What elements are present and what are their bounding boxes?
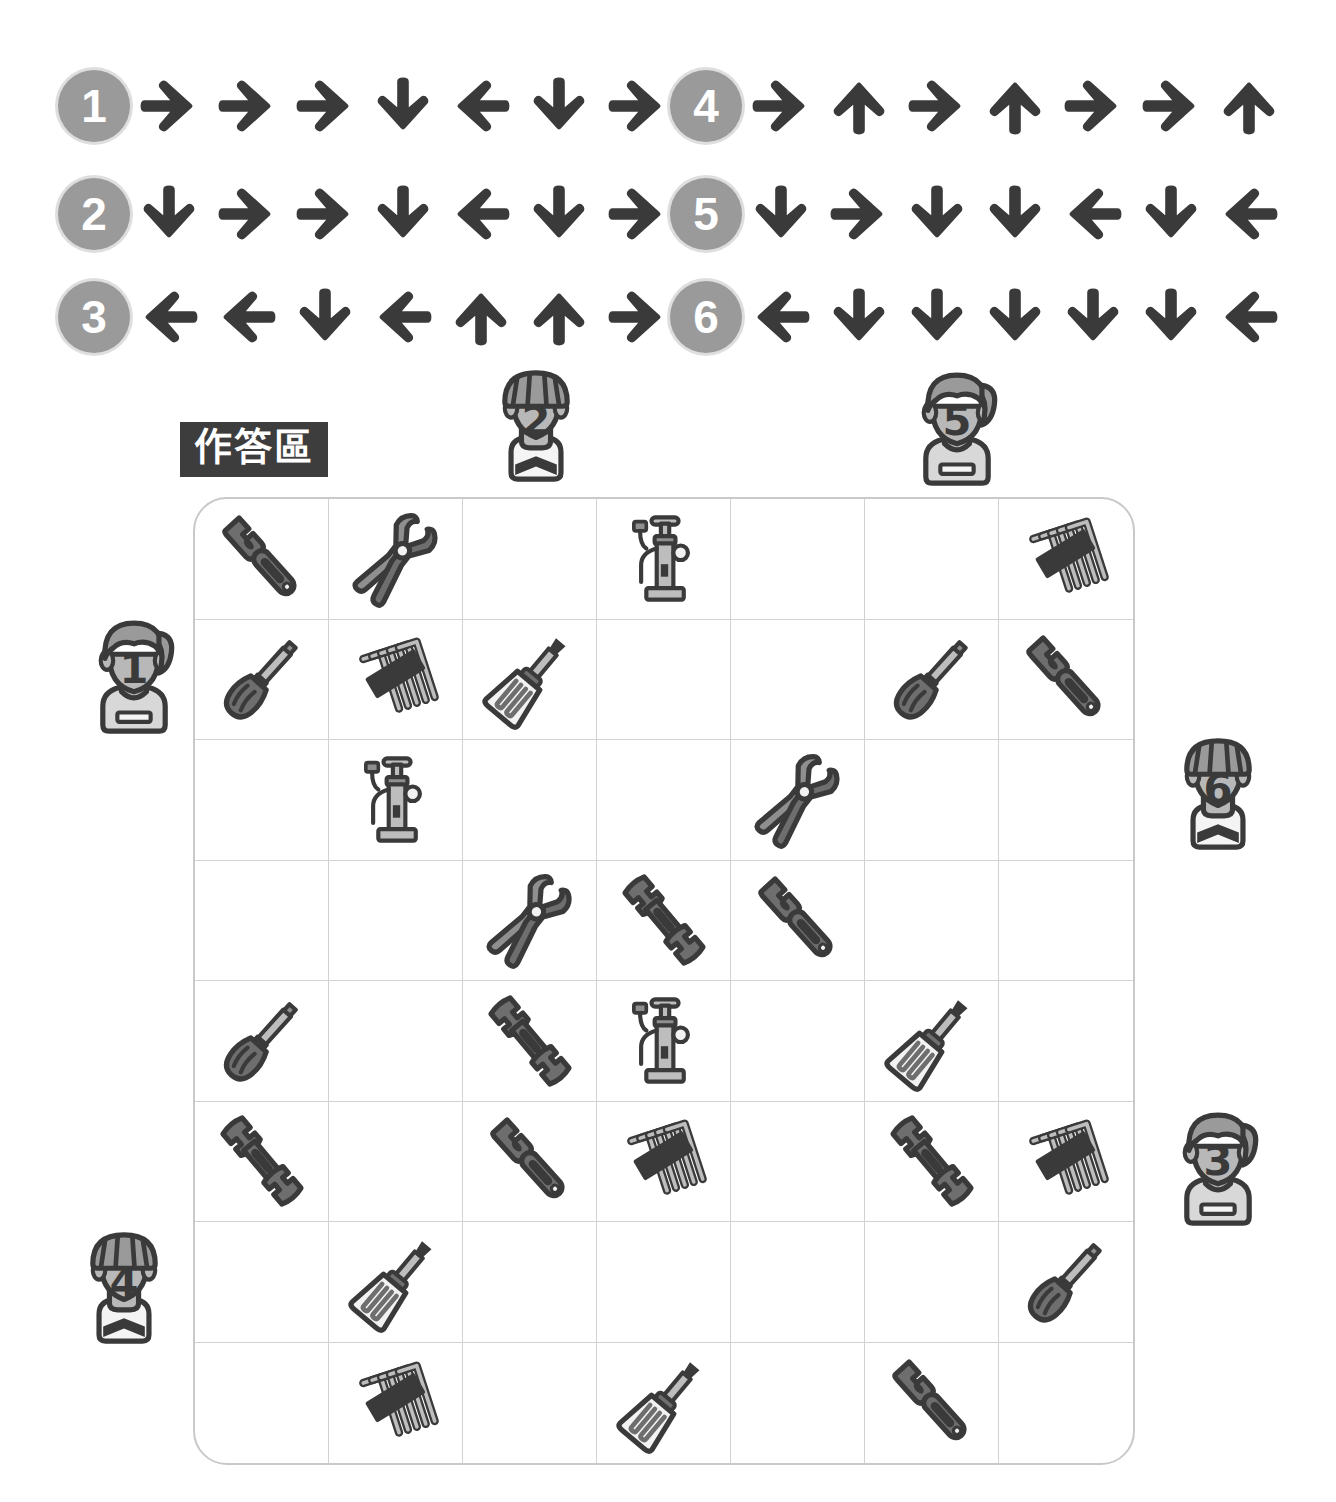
arrow-down-icon: [976, 281, 1054, 353]
grid-cell-empty[interactable]: [865, 1222, 999, 1343]
grid-cell-tool[interactable]: [597, 861, 731, 982]
grid-cell-empty[interactable]: [329, 981, 463, 1102]
adjustable-wrench-icon: [478, 1109, 582, 1213]
avatar-5: 5: [905, 360, 1009, 492]
grid-cell-tool[interactable]: [999, 1102, 1133, 1223]
grid-cell-tool[interactable]: [195, 1102, 329, 1223]
adjustable-wrench-icon: [880, 1351, 984, 1455]
grid-cell-tool[interactable]: [329, 620, 463, 741]
grid-cell-empty[interactable]: [329, 861, 463, 982]
grid-cell-tool[interactable]: [463, 620, 597, 741]
grid-cell-empty[interactable]: [731, 1222, 865, 1343]
arrow-down-icon: [364, 70, 442, 142]
arrow-right-icon: [1054, 70, 1132, 142]
grid-cell-empty[interactable]: [195, 861, 329, 982]
grid-cell-empty[interactable]: [463, 1222, 597, 1343]
hex-key-set-icon: [344, 1351, 448, 1455]
arrow-down-icon: [1132, 178, 1210, 250]
adjustable-wrench-icon: [210, 507, 314, 611]
grid-cell-tool[interactable]: [195, 499, 329, 620]
grid-cell-tool[interactable]: [329, 1343, 463, 1464]
svg-text:2: 2: [522, 396, 551, 445]
grid-cell-tool[interactable]: [195, 620, 329, 741]
grid-cell-tool[interactable]: [597, 1102, 731, 1223]
arrow-up-icon: [976, 70, 1054, 142]
grid-cell-empty[interactable]: [463, 1343, 597, 1464]
grid-cell-tool[interactable]: [329, 499, 463, 620]
grid-cell-empty[interactable]: [731, 981, 865, 1102]
clue-badge-5: 5: [670, 178, 742, 250]
grid-cell-tool[interactable]: [999, 620, 1133, 741]
avatar-3: 3: [1166, 1100, 1270, 1232]
grid-cell-empty[interactable]: [999, 861, 1133, 982]
pliers-icon: [746, 748, 850, 852]
arrow-left-icon: [208, 281, 286, 353]
grid-cell-tool[interactable]: [195, 981, 329, 1102]
grid-cell-empty[interactable]: [195, 1343, 329, 1464]
grid-cell-tool[interactable]: [865, 1102, 999, 1223]
arrow-right-icon: [208, 70, 286, 142]
arrow-left-icon: [364, 281, 442, 353]
grid-cell-empty[interactable]: [463, 499, 597, 620]
phillips-screwdriver-icon: [344, 1230, 448, 1334]
grid-cell-tool[interactable]: [731, 861, 865, 982]
grid-cell-tool[interactable]: [597, 499, 731, 620]
grid-cell-empty[interactable]: [865, 740, 999, 861]
grid-cell-empty[interactable]: [999, 1343, 1133, 1464]
grid-cell-tool[interactable]: [999, 1222, 1133, 1343]
grid-cell-tool[interactable]: [597, 1343, 731, 1464]
grid-cell-tool[interactable]: [999, 499, 1133, 620]
grid-cell-empty[interactable]: [597, 1222, 731, 1343]
arrow-right-icon: [1132, 70, 1210, 142]
grid-cell-empty[interactable]: [195, 740, 329, 861]
flathead-screwdriver-icon: [880, 627, 984, 731]
grid-cell-empty[interactable]: [999, 981, 1133, 1102]
arrow-sequence-1: [130, 70, 676, 142]
clue-row-1: 1: [58, 70, 676, 142]
arrow-left-icon: [442, 178, 520, 250]
grid-cell-empty[interactable]: [865, 499, 999, 620]
arrow-sequence-5: [742, 178, 1288, 250]
grid-cell-tool[interactable]: [463, 861, 597, 982]
grid-cell-tool[interactable]: [865, 981, 999, 1102]
grid-cell-empty[interactable]: [597, 740, 731, 861]
grid-cell-empty[interactable]: [731, 499, 865, 620]
grid-cell-empty[interactable]: [195, 1222, 329, 1343]
clue-badge-1: 1: [58, 70, 130, 142]
bicycle-pump-icon: [344, 748, 448, 852]
arrow-right-icon: [598, 178, 676, 250]
grid-cell-empty[interactable]: [731, 1343, 865, 1464]
answer-grid[interactable]: [193, 497, 1135, 1465]
grid-cell-tool[interactable]: [463, 981, 597, 1102]
grid-cell-empty[interactable]: [731, 620, 865, 741]
arrow-down-icon: [742, 178, 820, 250]
bicycle-pump-icon: [612, 989, 716, 1093]
grid-cell-tool[interactable]: [329, 740, 463, 861]
grid-cell-empty[interactable]: [999, 740, 1133, 861]
grid-cell-tool[interactable]: [463, 1102, 597, 1223]
clue-badge-2: 2: [58, 178, 130, 250]
grid-cell-empty[interactable]: [463, 740, 597, 861]
arrow-right-icon: [130, 70, 208, 142]
arrow-down-icon: [820, 281, 898, 353]
grid-cell-tool[interactable]: [865, 620, 999, 741]
arrow-down-icon: [1054, 281, 1132, 353]
grid-cell-empty[interactable]: [597, 620, 731, 741]
adjustable-wrench-icon: [1014, 627, 1118, 731]
grid-cell-tool[interactable]: [329, 1222, 463, 1343]
clue-row-6: 6: [670, 281, 1288, 353]
grid-cell-empty[interactable]: [865, 861, 999, 982]
hex-key-set-icon: [1014, 1109, 1118, 1213]
arrow-right-icon: [286, 178, 364, 250]
open-end-wrench-icon: [880, 1109, 984, 1213]
grid-cell-empty[interactable]: [731, 1102, 865, 1223]
grid-cell-empty[interactable]: [329, 1102, 463, 1223]
pliers-icon: [478, 868, 582, 972]
svg-text:1: 1: [120, 644, 149, 693]
grid-cell-tool[interactable]: [865, 1343, 999, 1464]
arrow-down-icon: [520, 70, 598, 142]
grid-cell-tool[interactable]: [731, 740, 865, 861]
grid-cell-tool[interactable]: [597, 981, 731, 1102]
svg-text:5: 5: [943, 396, 972, 445]
arrow-down-icon: [976, 178, 1054, 250]
